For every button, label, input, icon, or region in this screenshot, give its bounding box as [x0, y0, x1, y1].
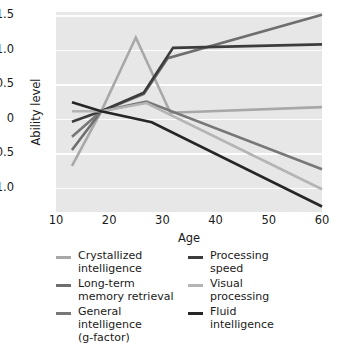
legend-item[interactable]: Crystallized intelligence: [56, 250, 206, 275]
chart-figure: Ability level 1.51.00.50-0.5-1.0 1020304…: [0, 0, 340, 352]
x-tick-label: 40: [196, 215, 236, 227]
legend-item[interactable]: Processing speed: [188, 250, 338, 275]
plot-area: [56, 12, 322, 212]
y-tick-label: 1.0: [0, 50, 14, 62]
legend-item[interactable]: General intelligence (g-factor): [56, 306, 206, 344]
y-tick-label: 0.5: [0, 84, 14, 96]
y-tick-label: 1.5: [0, 15, 14, 27]
chart-legend: Crystallized intelligenceLong-term memor…: [0, 250, 340, 352]
legend-label: Crystallized intelligence: [78, 250, 142, 275]
legend-swatch-icon: [188, 284, 203, 287]
legend-swatch-icon: [56, 256, 71, 259]
y-tick-label: 0: [7, 119, 14, 131]
legend-label: Long-term memory retrieval: [78, 278, 173, 303]
legend-swatch-icon: [56, 284, 71, 287]
legend-item[interactable]: Visual processing: [188, 278, 338, 303]
legend-item[interactable]: Long-term memory retrieval: [56, 278, 206, 303]
x-tick-label: 10: [36, 215, 76, 227]
legend-label: General intelligence (g-factor): [78, 306, 142, 344]
y-tick-label: -1.0: [0, 188, 14, 200]
legend-label: Visual processing: [210, 278, 269, 303]
legend-label: Processing speed: [210, 250, 269, 275]
y-axis-label: Ability level: [29, 78, 43, 145]
y-tick-label: -0.5: [0, 153, 14, 165]
x-tick-label: 60: [302, 215, 340, 227]
legend-column-left: Crystallized intelligenceLong-term memor…: [56, 250, 206, 347]
legend-item[interactable]: Fluid intelligence: [188, 306, 338, 331]
x-axis-label: Age: [56, 231, 322, 245]
legend-column-right: Processing speedVisual processingFluid i…: [188, 250, 338, 335]
x-tick-label: 50: [249, 215, 289, 227]
x-tick-label: 20: [89, 215, 129, 227]
plot-wrapper: Ability level 1.51.00.50-0.5-1.0 1020304…: [0, 0, 340, 248]
legend-swatch-icon: [188, 256, 203, 259]
series-line: [72, 15, 322, 150]
data-lines: [56, 12, 322, 212]
legend-label: Fluid intelligence: [210, 306, 274, 331]
x-tick-label: 30: [142, 215, 182, 227]
legend-swatch-icon: [56, 312, 71, 315]
legend-swatch-icon: [188, 312, 203, 315]
series-line: [72, 38, 322, 166]
